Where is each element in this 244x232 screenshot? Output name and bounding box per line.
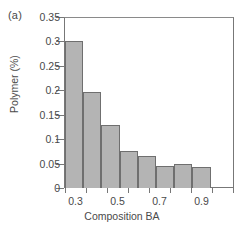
x-tick-label: 0.9 [194,195,209,207]
x-tick [107,188,108,193]
bar [65,41,83,188]
bar [120,151,138,188]
bar [138,156,156,188]
y-tick-label: 0 [54,182,60,194]
y-axis-title: Polymer (%) [8,24,20,144]
x-axis-title: Composition BA [0,210,244,222]
y-tick-label: 0.1 [45,133,60,145]
bar [83,92,101,188]
bar [174,164,192,188]
figure-panel-a: (a) Polymer (%) 0.350.30.250.20.150.10.0… [0,0,244,232]
bar [156,166,174,188]
y-tick-label: 0.2 [45,84,60,96]
y-tick-label: 0.35 [40,11,60,23]
x-tick-label: 0.3 [68,195,83,207]
bar [101,125,119,188]
x-tick [149,188,150,193]
x-tick-label: 0.5 [110,195,125,207]
x-tick-label: 0.7 [152,195,167,207]
x-tick [212,188,213,193]
bar [192,167,210,188]
x-tick [128,188,129,193]
y-tick-label: 0.25 [40,60,60,72]
y-tick-label: 0.15 [40,109,60,121]
x-tick [191,188,192,193]
panel-label: (a) [8,9,22,21]
x-tick [170,188,171,193]
x-tick [86,188,87,193]
bar-series [65,18,233,188]
y-tick-label: 0.3 [45,35,60,47]
y-tick-label: 0.05 [40,158,60,170]
x-tick [233,188,234,193]
x-tick [65,188,66,193]
